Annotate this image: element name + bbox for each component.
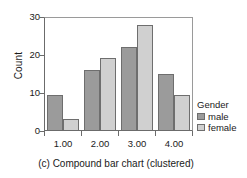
- figure-caption: (c) Compound bar chart (clustered): [0, 158, 232, 169]
- plot-area: [44, 17, 193, 131]
- bar-group: [45, 17, 192, 130]
- legend-label-female: female: [208, 122, 237, 133]
- x-tick-label-4: 4.00: [154, 138, 194, 149]
- bar-female-2[interactable]: [100, 58, 116, 130]
- cluster-1: [47, 95, 79, 130]
- y-tick-label-20: 20: [18, 50, 40, 60]
- y-tick-label-10: 10: [18, 88, 40, 98]
- y-tick-label-0: 0: [18, 126, 40, 136]
- bar-male-3[interactable]: [121, 47, 137, 130]
- bar-female-3[interactable]: [137, 25, 153, 130]
- x-tick-mark-3: [155, 131, 156, 136]
- x-tick-label-2: 2.00: [80, 138, 120, 149]
- legend-item-male[interactable]: male: [197, 111, 247, 122]
- legend-item-female[interactable]: female: [197, 122, 247, 133]
- bar-male-4[interactable]: [158, 74, 174, 131]
- bar-female-4[interactable]: [174, 95, 190, 130]
- bar-female-1[interactable]: [63, 119, 79, 130]
- x-tick-label-1: 1.00: [43, 138, 83, 149]
- legend-label-male: male: [208, 111, 229, 122]
- x-tick-mark-1: [81, 131, 82, 136]
- bar-male-2[interactable]: [84, 70, 100, 130]
- bar-male-1[interactable]: [47, 95, 63, 130]
- cluster-3: [121, 25, 153, 130]
- legend-swatch-male-icon: [197, 113, 205, 120]
- cluster-2: [84, 58, 116, 130]
- y-tick-label-30: 30: [18, 12, 40, 22]
- x-tick-mark-left-edge: [44, 131, 45, 136]
- x-tick-mark-2: [118, 131, 119, 136]
- legend: Gender male female: [197, 99, 247, 133]
- x-tick-label-3: 3.00: [117, 138, 157, 149]
- y-tick-label-group: 30 20 10 0: [16, 0, 40, 178]
- legend-title: Gender: [197, 99, 247, 110]
- x-tick-mark-right-edge: [192, 131, 193, 136]
- figure: Count 30 20 10 0: [0, 0, 247, 178]
- cluster-4: [158, 74, 190, 131]
- legend-swatch-female-icon: [197, 124, 205, 131]
